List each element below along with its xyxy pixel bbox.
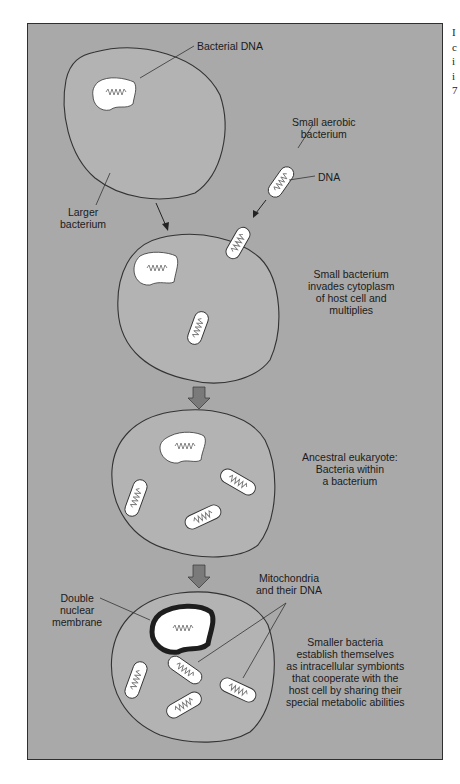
- larger-bacterium-cell: [64, 48, 225, 199]
- label-line: Mitochondria: [256, 572, 322, 584]
- label-small-aerobic-bacterium: Small aerobic bacterium: [292, 116, 356, 140]
- double-nuclear-membrane: [152, 606, 213, 652]
- text-fragment: I: [452, 25, 458, 40]
- label-dna: DNA: [318, 171, 340, 183]
- label-line: as intracellular symbionts: [286, 660, 404, 672]
- label-line: host cell by sharing their: [286, 684, 404, 696]
- label-mitochondria: Mitochondria and their DNA: [256, 572, 322, 596]
- label-line: invades cytoplasm: [308, 280, 394, 292]
- arrow-bacterium-entering: [253, 200, 266, 218]
- label-line: Small bacterium: [308, 268, 394, 280]
- label-line: Double: [52, 592, 102, 604]
- label-line: and their DNA: [256, 584, 322, 596]
- label-line: of host cell and: [308, 292, 394, 304]
- label-line: Larger: [60, 206, 106, 218]
- caption-step-3: Ancestral eukaryote: Bacteria within a b…: [302, 451, 398, 487]
- label-line: that cooperate with the: [286, 672, 404, 684]
- text-fragment: i: [452, 54, 458, 69]
- small-aerobic-bacterium: [266, 164, 297, 200]
- label-line: Small aerobic: [292, 116, 356, 128]
- label-line: Bacteria within: [302, 463, 398, 475]
- label-line: multiplies: [308, 304, 394, 316]
- label-line: membrane: [52, 616, 102, 628]
- block-arrow-2: [188, 565, 210, 588]
- label-line: bacterium: [292, 128, 356, 140]
- label-bacterial-dna: Bacterial DNA: [197, 40, 263, 52]
- label-larger-bacterium: Larger bacterium: [60, 206, 106, 230]
- text-fragment: c: [452, 40, 458, 55]
- label-line: establish themselves: [286, 648, 404, 660]
- text-fragment: 7: [452, 83, 458, 98]
- block-arrow-1: [188, 387, 210, 409]
- label-line: special metabolic abilities: [286, 696, 404, 708]
- caption-step-2: Small bacterium invades cytoplasm of hos…: [308, 268, 394, 316]
- label-double-nuclear-membrane: Double nuclear membrane: [52, 592, 102, 628]
- text-fragment: i: [452, 69, 458, 84]
- label-line: bacterium: [60, 218, 106, 230]
- label-line: a bacterium: [302, 475, 398, 487]
- caption-step-4: Smaller bacteria establish themselves as…: [286, 636, 404, 708]
- label-line: nuclear: [52, 604, 102, 616]
- cropped-body-text: I c i i 7: [452, 25, 458, 98]
- label-line: Ancestral eukaryote:: [302, 451, 398, 463]
- arrow-to-stage2: [156, 203, 169, 231]
- label-line: Smaller bacteria: [286, 636, 404, 648]
